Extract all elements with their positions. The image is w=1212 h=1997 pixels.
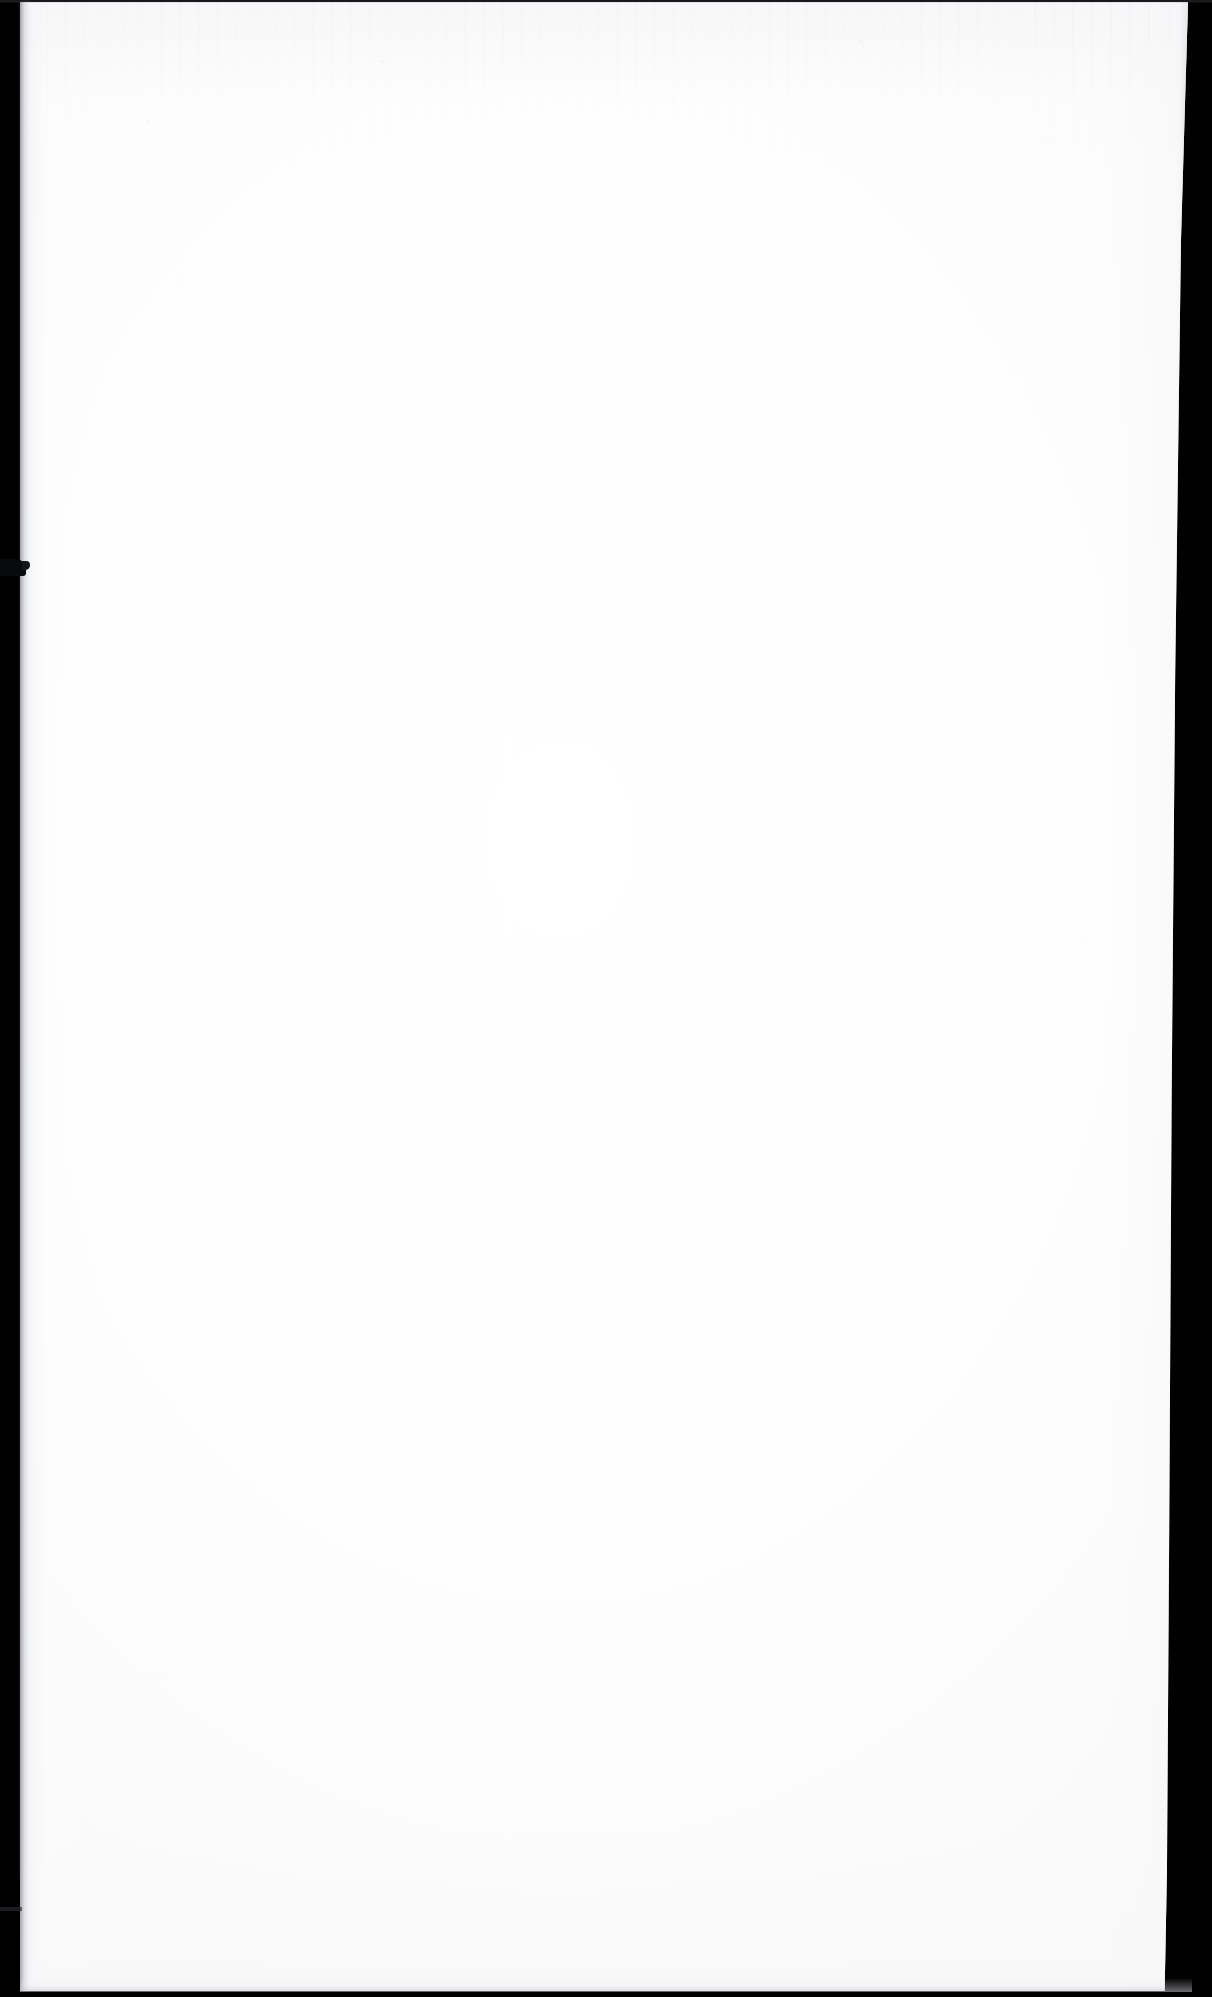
- scan-canvas: blank: [0, 0, 1212, 1997]
- bottom-left-edge-notch: [0, 1907, 22, 1911]
- top-scan-hairline: [0, 0, 1212, 3]
- scan-streak-artifact: [20, 2, 1188, 172]
- bottom-scan-strip: [0, 1992, 1212, 1997]
- bottom-left-gutter-wedge: [0, 1879, 20, 1997]
- page-sheet: blank: [20, 2, 1188, 1991]
- binding-gutter-band: [0, 0, 18, 1997]
- page-content-area: blank: [116, 152, 1092, 1841]
- binding-clip-icon: [0, 559, 26, 576]
